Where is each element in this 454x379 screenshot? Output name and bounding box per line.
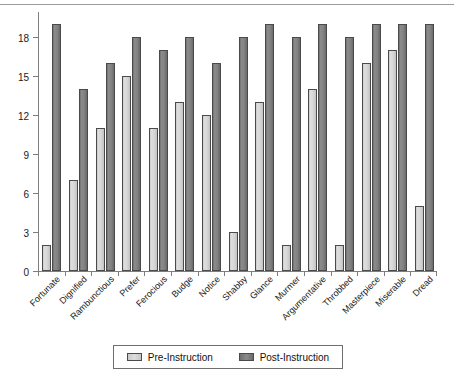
x-axis-label: Prefer	[118, 274, 142, 298]
bar-post-instruction	[398, 24, 407, 271]
bar-group	[69, 12, 89, 271]
x-axis-label: Shabby	[220, 274, 249, 303]
bar-pre-instruction	[202, 115, 211, 271]
y-tick-18: 18	[33, 37, 38, 38]
bar-pre-instruction	[308, 89, 317, 271]
y-tick-label-9: 9	[23, 149, 29, 160]
bar-post-instruction	[265, 24, 274, 271]
bar-post-instruction	[372, 24, 381, 271]
bar-group	[175, 12, 195, 271]
bar-pre-instruction	[229, 232, 238, 271]
x-axis-label: Fortunate	[28, 274, 62, 308]
y-tick-label-3: 3	[23, 227, 29, 238]
bar-pre-instruction	[335, 245, 344, 271]
bar-group	[362, 12, 382, 271]
y-tick-12: 12	[33, 115, 38, 116]
bar-post-instruction	[52, 24, 61, 271]
bar-group	[229, 12, 249, 271]
bar-group	[202, 12, 222, 271]
legend-swatch-post-instruction	[239, 353, 254, 361]
legend-swatch-pre-instruction	[127, 353, 142, 361]
x-axis-label: Budge	[170, 274, 195, 299]
bar-group	[149, 12, 169, 271]
legend-item-post-instruction: Post-Instruction	[239, 352, 329, 363]
bar-group	[335, 12, 355, 271]
bar-group	[388, 12, 408, 271]
y-tick-label-18: 18	[18, 32, 29, 43]
y-tick-15: 15	[33, 76, 38, 77]
bar-post-instruction	[239, 37, 248, 271]
bar-pre-instruction	[122, 76, 131, 271]
bar-group	[415, 12, 435, 271]
bar-pre-instruction	[388, 50, 397, 271]
top-divider	[0, 4, 454, 5]
x-axis-line	[38, 271, 437, 272]
y-tick-9: 9	[33, 154, 38, 155]
y-tick-label-6: 6	[23, 188, 29, 199]
y-tick-label-15: 15	[18, 71, 29, 82]
bar-post-instruction	[185, 37, 194, 271]
chart-legend: Pre-Instruction Post-Instruction	[113, 345, 343, 369]
bar-group	[308, 12, 328, 271]
bar-group	[122, 12, 142, 271]
bar-post-instruction	[318, 24, 327, 271]
x-axis-label: Notice	[197, 274, 222, 299]
bar-pre-instruction	[69, 180, 78, 271]
plot-area: 0369121518	[38, 12, 437, 272]
bar-group	[96, 12, 116, 271]
bar-post-instruction	[345, 37, 354, 271]
x-axis-labels: FortunateDignifiedRambunctiousPreferFero…	[38, 274, 437, 336]
bar-group	[282, 12, 302, 271]
x-axis-label: Glance	[248, 274, 275, 301]
y-tick-6: 6	[33, 193, 38, 194]
bar-pre-instruction	[96, 128, 105, 271]
bar-pre-instruction	[149, 128, 158, 271]
legend-label-post-instruction: Post-Instruction	[260, 352, 329, 363]
bar-series-container	[39, 12, 437, 271]
legend-item-pre-instruction: Pre-Instruction	[127, 352, 213, 363]
bar-pre-instruction	[175, 102, 184, 271]
legend-label-pre-instruction: Pre-Instruction	[148, 352, 213, 363]
y-tick-3: 3	[33, 232, 38, 233]
bar-pre-instruction	[255, 102, 264, 271]
y-tick-label-12: 12	[18, 110, 29, 121]
bar-post-instruction	[132, 37, 141, 271]
bar-post-instruction	[106, 63, 115, 271]
bar-pre-instruction	[42, 245, 51, 271]
bar-post-instruction	[159, 50, 168, 271]
bar-group	[255, 12, 275, 271]
bar-post-instruction	[212, 63, 221, 271]
bar-pre-instruction	[282, 245, 291, 271]
bar-pre-instruction	[415, 206, 424, 271]
bar-pre-instruction	[362, 63, 371, 271]
bar-post-instruction	[292, 37, 301, 271]
bar-group	[42, 12, 62, 271]
x-axis-label: Dread	[410, 274, 434, 298]
bar-post-instruction	[425, 24, 434, 271]
bar-chart-figure: 0369121518 FortunateDignifiedRambunctiou…	[0, 0, 454, 379]
y-tick-label-0: 0	[23, 266, 29, 277]
bar-post-instruction	[79, 89, 88, 271]
